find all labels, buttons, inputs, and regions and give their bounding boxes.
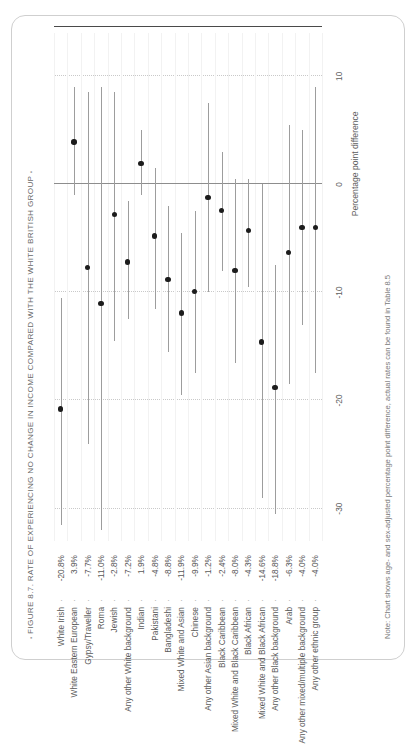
figure-title-text: FIGURE 8.7. RATE OF EXPERIENCING NO CHAN… — [26, 176, 35, 634]
category-separator — [67, 33, 68, 541]
data-point[interactable] — [179, 310, 184, 315]
data-point[interactable] — [299, 225, 304, 230]
category-label: Arab — [284, 607, 294, 625]
category-separator — [282, 33, 283, 541]
data-point[interactable] — [232, 268, 237, 273]
category-separator — [121, 33, 122, 541]
data-point[interactable] — [58, 406, 63, 411]
label-separator: · — [257, 599, 267, 602]
category-separator — [201, 33, 202, 541]
value-label: -9.9% — [190, 555, 200, 577]
data-point[interactable] — [112, 212, 117, 217]
label-separator: · — [56, 599, 66, 602]
category-separator — [148, 33, 149, 541]
data-point[interactable] — [192, 289, 197, 294]
category-label: Any other Asian background — [203, 607, 213, 711]
data-point[interactable] — [219, 208, 224, 213]
category-separator — [309, 33, 310, 541]
category-label: Any other ethnic group — [310, 607, 320, 690]
label-separator: · — [217, 599, 227, 602]
category-separator — [215, 33, 216, 541]
value-label: -8.8% — [163, 555, 173, 577]
category-label: Any other White background — [123, 607, 133, 712]
category-label: White Eastern European — [69, 607, 79, 697]
x-tick-label: -30 — [334, 503, 344, 515]
category-separator — [255, 33, 256, 541]
label-separator: · — [96, 599, 106, 602]
category-label: Any other mixed/multiple background — [297, 607, 307, 744]
label-separator: · — [270, 599, 280, 602]
value-label: -1.2% — [203, 555, 213, 577]
value-axis-line — [54, 26, 322, 27]
category-separator — [175, 33, 176, 541]
value-label: -4.0% — [310, 555, 320, 577]
category-separator — [322, 33, 323, 541]
category-label: Pakistani — [150, 607, 160, 641]
category-separator — [228, 33, 229, 541]
category-label: Black African — [243, 607, 253, 655]
figure-card: ▪ FIGURE 8.7. RATE OF EXPERIENCING NO CH… — [11, 15, 405, 660]
label-separator: · — [297, 599, 307, 602]
data-point[interactable] — [286, 250, 291, 255]
value-label: -7.7% — [83, 555, 93, 577]
label-separator: · — [123, 599, 133, 602]
value-label: -2.8% — [109, 555, 119, 577]
label-separator: · — [69, 599, 79, 602]
value-label: -4.8% — [150, 555, 160, 577]
value-label: -20.8% — [56, 555, 66, 581]
data-point[interactable] — [313, 225, 318, 230]
category-separator — [242, 33, 243, 541]
category-label: Mixed White and Black Caribbean — [230, 607, 240, 732]
data-point[interactable] — [152, 234, 157, 239]
value-label: -11.0% — [96, 555, 106, 581]
category-separator — [81, 33, 82, 541]
category-label: Roma — [96, 607, 106, 629]
category-label: Any other Black background — [270, 607, 280, 711]
data-point[interactable] — [85, 265, 90, 270]
label-separator: · — [136, 599, 146, 602]
data-point[interactable] — [272, 385, 277, 390]
category-separator — [54, 33, 55, 541]
data-point[interactable] — [205, 195, 210, 200]
data-point[interactable] — [259, 339, 264, 344]
label-separator: · — [230, 599, 240, 602]
category-label: Gypsy/Traveller — [83, 607, 93, 665]
value-label: -4.0% — [297, 555, 307, 577]
x-tick-label: -20 — [334, 394, 344, 406]
value-label: -8.0% — [230, 555, 240, 577]
x-tick-label: 10 — [334, 72, 344, 81]
value-label: -2.4% — [217, 555, 227, 577]
value-label: -6.3% — [284, 555, 294, 577]
data-point[interactable] — [246, 228, 251, 233]
data-point[interactable] — [71, 139, 76, 144]
category-label: Mixed White and Black African — [257, 607, 267, 719]
value-label: -11.9% — [176, 555, 186, 581]
data-point[interactable] — [165, 277, 170, 282]
category-label: Jewish — [109, 607, 119, 632]
label-separator: · — [83, 599, 93, 602]
data-point[interactable] — [125, 259, 130, 264]
category-label: Bangladeshi — [163, 607, 173, 653]
confidence-interval-bar — [101, 87, 102, 530]
label-separator: · — [190, 599, 200, 602]
x-tick-label: 0 — [334, 182, 344, 187]
value-label: 1.9% — [136, 555, 146, 574]
category-label: Indian — [136, 607, 146, 630]
x-tick-label: -10 — [334, 286, 344, 298]
value-label: -18.8% — [270, 555, 280, 581]
zero-reference-line — [54, 183, 322, 184]
data-point[interactable] — [98, 301, 103, 306]
x-axis-label: Percentage point difference — [350, 111, 360, 216]
category-label: Mixed White and Asian — [176, 607, 186, 691]
value-label: -4.3% — [243, 555, 253, 577]
category-separator — [161, 33, 162, 541]
category-separator — [268, 33, 269, 541]
category-separator — [94, 33, 95, 541]
data-point[interactable] — [138, 161, 143, 166]
title-bullet-left: ▪ — [28, 637, 34, 639]
value-label: -14.6% — [257, 555, 267, 581]
label-separator: · — [243, 599, 253, 602]
value-label: -7.2% — [123, 555, 133, 577]
